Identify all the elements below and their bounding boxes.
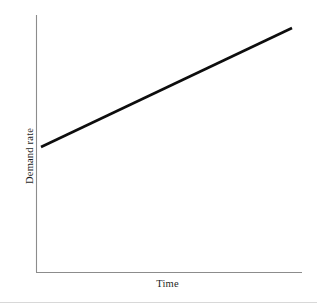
x-axis-title: Time (9, 279, 317, 290)
chart-canvas (0, 0, 317, 306)
chart-background (0, 0, 317, 306)
chart-figure: Demand rate Time (0, 0, 317, 306)
y-axis-title: Demand rate (25, 128, 36, 184)
